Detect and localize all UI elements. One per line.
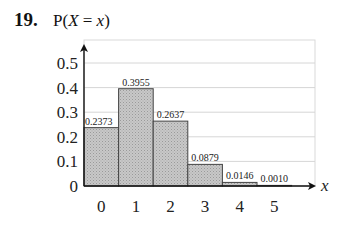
- x-tick-label: 1: [132, 197, 141, 216]
- x-tick-label: 4: [235, 197, 244, 216]
- x-tick-label: 2: [166, 197, 175, 216]
- bar-3: [188, 164, 223, 186]
- x-axis-label: x: [320, 176, 329, 195]
- y-tick-labels: 00.10.20.30.40.5: [57, 54, 79, 196]
- problem-number: 19.: [14, 9, 38, 30]
- x-tick-label: 3: [201, 197, 210, 216]
- bar-value-label: 0.0146: [226, 170, 254, 181]
- bar-1: [119, 89, 154, 186]
- x-tick-labels: 012345: [97, 197, 278, 216]
- bar-value-label: 0.2637: [157, 109, 185, 120]
- y-tick-label: 0.5: [57, 54, 78, 73]
- bar-value-label: 0.2373: [85, 116, 113, 127]
- probability-histogram: 19. P(X = x) x 00.10.20.30.40.5 012345 0…: [0, 0, 357, 225]
- y-tick-label: 0.4: [57, 79, 79, 98]
- bar-value-label: 0.3955: [122, 77, 150, 88]
- y-tick-label: 0.1: [57, 152, 78, 171]
- y-axis-title: P(X = x): [53, 11, 110, 30]
- x-tick-label: 0: [97, 197, 106, 216]
- y-tick-label: 0.2: [57, 128, 78, 147]
- bar-0: [84, 128, 119, 186]
- x-tick-label: 5: [270, 197, 279, 216]
- bar-value-label: 0.0010: [261, 173, 289, 184]
- bar-value-label: 0.0879: [191, 152, 219, 163]
- y-tick-label: 0.3: [57, 103, 78, 122]
- bar-2: [153, 121, 188, 186]
- y-tick-label: 0: [70, 177, 79, 196]
- bars: [84, 89, 292, 186]
